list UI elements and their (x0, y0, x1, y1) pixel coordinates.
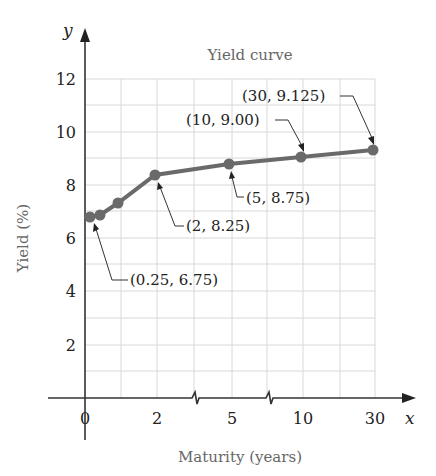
svg-text:5: 5 (227, 409, 237, 428)
data-point (296, 152, 307, 163)
data-point (224, 159, 235, 170)
axes (48, 40, 405, 440)
svg-text:0: 0 (80, 409, 90, 428)
svg-text:4: 4 (66, 282, 76, 301)
x-axis-var: x (405, 408, 415, 428)
svg-text:12: 12 (56, 70, 76, 89)
x-tick-labels: 0 2 5 10 30 (80, 409, 385, 428)
svg-text:2: 2 (66, 336, 76, 355)
svg-text:(30, 9.125): (30, 9.125) (242, 87, 325, 105)
data-point (95, 210, 106, 221)
svg-text:(5, 8.75): (5, 8.75) (246, 189, 310, 207)
svg-text:2: 2 (152, 409, 162, 428)
svg-text:10: 10 (56, 123, 76, 142)
svg-text:8: 8 (66, 176, 76, 195)
x-axis-arrow-icon (402, 393, 416, 403)
y-tick-labels: 12 10 8 6 4 2 (56, 70, 76, 355)
y-axis-label: Yield (%) (14, 204, 32, 273)
data-point (368, 145, 379, 156)
svg-text:(2, 8.25): (2, 8.25) (186, 217, 250, 235)
yield-curve-chart: y x 12 10 8 6 4 2 0 2 5 10 30 Yield curv… (0, 0, 436, 476)
x-axis-label: Maturity (years) (178, 448, 302, 466)
data-point (85, 212, 96, 223)
chart-title: Yield curve (206, 46, 292, 64)
y-axis-arrow-icon (80, 28, 90, 42)
y-axis-var: y (62, 20, 73, 40)
svg-text:(10, 9.00): (10, 9.00) (186, 111, 260, 129)
data-point (150, 170, 161, 181)
svg-text:6: 6 (66, 229, 76, 248)
svg-text:(0.25, 6.75): (0.25, 6.75) (130, 271, 218, 289)
data-point (113, 198, 124, 209)
svg-text:10: 10 (293, 409, 313, 428)
svg-text:30: 30 (365, 409, 385, 428)
